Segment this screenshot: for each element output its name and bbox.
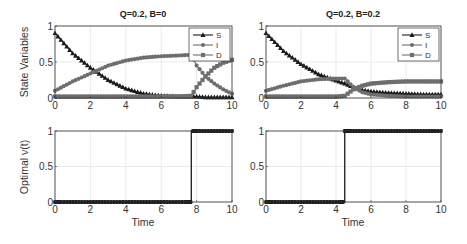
x-tick-label: 2 (298, 204, 304, 215)
square-marker (200, 78, 204, 82)
x-tick-label: 8 (194, 100, 200, 111)
x-tick-label: 4 (333, 204, 339, 215)
circle-marker (195, 64, 199, 68)
square-marker (195, 85, 199, 89)
xlabel-time-left: Time (132, 216, 155, 228)
circle-marker (410, 43, 414, 47)
x-tick-label: 2 (298, 100, 304, 111)
y-tick-label: 0.5 (250, 161, 264, 172)
x-tick-label: 0 (52, 204, 58, 215)
legend-label-s: S (216, 31, 221, 40)
y-tick-label: 0 (258, 93, 264, 104)
y-tick-label: 1 (258, 21, 264, 32)
y-tick-label: 1 (47, 126, 53, 137)
x-tick-label: 10 (226, 100, 238, 111)
y-tick-label: 1 (47, 21, 53, 32)
x-tick-label: 8 (403, 204, 409, 215)
axes-state-variables-b02: 024681000.51SID (250, 21, 447, 112)
x-tick-label: 6 (368, 100, 374, 111)
square-marker (189, 94, 193, 98)
legend-label-s: S (425, 31, 430, 40)
x-tick-label: 8 (403, 100, 409, 111)
ylabel-optimal-nu: Optimal ν(t) (18, 140, 30, 194)
x-tick-label: 8 (194, 204, 200, 215)
x-tick-label: 6 (158, 204, 164, 215)
title-b0: Q=0.2, B=0 (120, 9, 167, 19)
x-tick-label: 2 (88, 100, 94, 111)
ylabel-state-variables: State Variables (18, 27, 30, 97)
y-tick-label: 0.5 (250, 57, 264, 68)
figure: 024681000.51SID Q=0.2, B=0 State Variabl… (0, 0, 467, 244)
x-tick-label: 10 (435, 100, 447, 111)
x-tick-label: 10 (226, 204, 238, 215)
axes-optimal-control-b0: 024681000.51 (39, 126, 238, 216)
y-tick-label: 0 (258, 197, 264, 208)
x-tick-label: 4 (333, 100, 339, 111)
x-tick-label: 2 (88, 204, 94, 215)
x-tick-label: 4 (123, 204, 129, 215)
y-tick-label: 0.5 (39, 57, 53, 68)
title-b02: Q=0.2, B=0.2 (326, 9, 380, 19)
axes-optimal-control-b02: 024681000.51 (250, 126, 447, 216)
legend-label-d: D (216, 51, 222, 60)
circle-marker (200, 71, 204, 75)
legend-label-i: I (216, 41, 218, 50)
y-tick-label: 1 (258, 126, 264, 137)
circle-marker (201, 43, 205, 47)
legend-label-d: D (425, 51, 431, 60)
xlabel-time-right: Time (342, 216, 365, 228)
x-tick-label: 4 (123, 100, 129, 111)
x-tick-label: 6 (158, 100, 164, 111)
legend-label-i: I (425, 41, 427, 50)
circle-marker (197, 67, 201, 71)
axes-state-variables-b0: 024681000.51SID (39, 21, 238, 112)
x-tick-label: 10 (435, 204, 447, 215)
x-tick-label: 0 (263, 100, 269, 111)
y-tick-label: 0 (47, 197, 53, 208)
x-tick-label: 0 (52, 100, 58, 111)
y-tick-label: 0.5 (39, 161, 53, 172)
legend: SID (398, 28, 439, 61)
square-marker (410, 53, 414, 57)
square-marker (192, 90, 196, 94)
legend: SID (189, 28, 230, 61)
x-tick-label: 0 (263, 204, 269, 215)
x-tick-label: 6 (368, 204, 374, 215)
square-marker (201, 53, 205, 57)
y-tick-label: 0 (47, 93, 53, 104)
square-marker (197, 82, 201, 86)
